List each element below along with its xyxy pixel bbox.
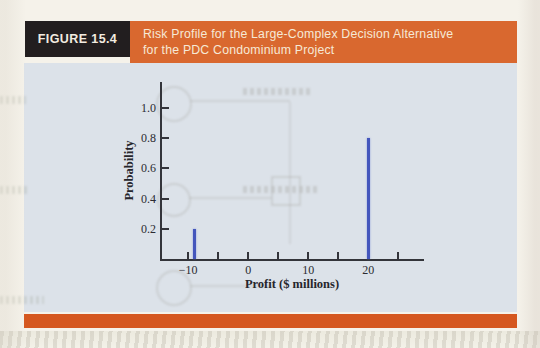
page-bottom-scan-texture <box>0 331 540 348</box>
y-axis-title: Probability <box>122 126 137 216</box>
x-axis-title: Profit ($ millions) <box>160 277 424 292</box>
x-minor-tick-mark <box>337 252 339 259</box>
x-minor-tick-mark <box>397 252 399 259</box>
y-tick-mark <box>162 228 169 230</box>
x-tick-label: −10 <box>179 263 198 278</box>
probability-bar <box>367 138 370 259</box>
x-minor-tick-mark <box>277 252 279 259</box>
textbook-page: FIGURE 15.4 Risk Profile for the Large-C… <box>0 0 540 348</box>
x-tick-label: 20 <box>362 263 374 278</box>
x-tick-mark <box>187 252 189 259</box>
y-tick-mark <box>162 107 169 109</box>
x-tick-label: 0 <box>245 263 251 278</box>
x-tick-mark <box>247 252 249 259</box>
bottom-accent-strip <box>24 314 517 328</box>
y-tick-mark <box>162 198 169 200</box>
y-tick-label: 0.2 <box>124 221 156 236</box>
y-tick-mark <box>162 167 169 169</box>
x-minor-tick-mark <box>217 252 219 259</box>
x-tick-mark <box>307 252 309 259</box>
x-axis-line <box>160 259 424 261</box>
risk-profile-chart: 0.20.40.60.81.0−1001020 <box>0 0 540 348</box>
probability-bar <box>193 229 196 259</box>
y-tick-mark <box>162 137 169 139</box>
y-tick-label: 1.0 <box>124 100 156 115</box>
x-tick-label: 10 <box>302 263 314 278</box>
